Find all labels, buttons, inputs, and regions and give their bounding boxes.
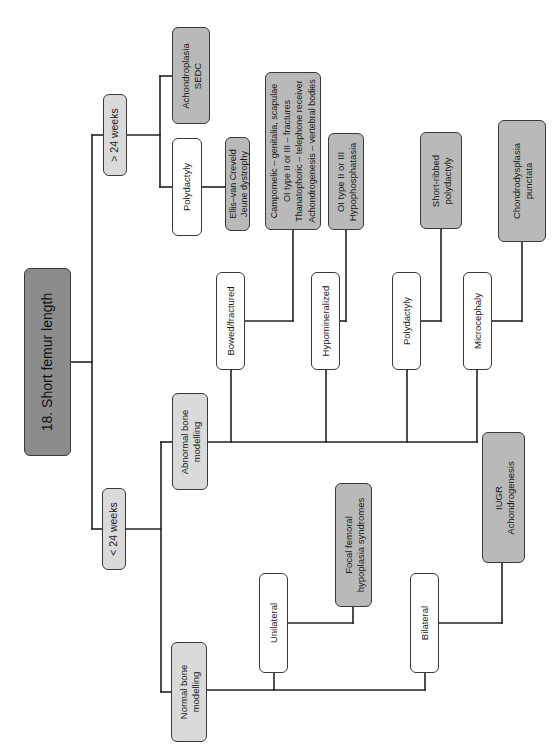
focal-femoral-label: Focal femoral hypoplasia syndromes (342, 498, 365, 593)
node-gt-24-weeks: > 24 weeks (103, 94, 127, 176)
microcephaly-label: Microcephaly (472, 293, 484, 349)
node-unilateral: Unilateral (259, 573, 288, 673)
ellis-label: Ellis–van Creveld Jeune dystrophy (227, 149, 248, 219)
node-bowed-fractured: Bowed/fractured (216, 272, 245, 370)
abnormal-label: Abnormal bone modelling (179, 409, 202, 473)
oi-hypo-label: OI type II or III Hypophosphatasia (335, 142, 358, 221)
node-polydactyly-late: Polydactyly (172, 138, 202, 236)
hypomineralized-label: Hypomineralized (320, 286, 332, 357)
polydactyly-early-label: Polydactyly (401, 297, 413, 345)
unilateral-label: Unilateral (268, 603, 280, 643)
achondroplasia-label: Achondroplasia SEDC (180, 43, 203, 109)
iugr-label: IUGR Achondrogenesis (492, 461, 515, 534)
node-bilateral: Bilateral (410, 573, 439, 673)
root-node-short-femur-length: 18. Short femur length (24, 268, 71, 456)
node-campomelic-list: Campomelic – genitalia, scapulae OI type… (265, 72, 321, 230)
node-microcephaly: Microcephaly (463, 272, 492, 370)
node-iugr-achondrogenesis: IUGR Achondrogenesis (482, 432, 525, 563)
root-label: 18. Short femur length (42, 293, 54, 432)
bowed-label: Bowed/fractured (225, 286, 237, 355)
node-chondrodysplasia-punctata: Chondrodysplasia punctata (498, 120, 546, 242)
node-focal-femoral-hypoplasia: Focal femoral hypoplasia syndromes (335, 483, 372, 607)
node-lt-24-weeks: < 24 weeks (102, 488, 126, 570)
polydactyly-late-label: Polydactyly (181, 163, 193, 211)
campomelic-label: Campomelic – genitalia, scapulae OI type… (268, 79, 318, 223)
chondrodysplasia-label: Chondrodysplasia punctata (511, 143, 534, 219)
node-abnormal-bone-modelling: Abnormal bone modelling (172, 393, 208, 490)
gt-24-weeks-label: > 24 weeks (109, 108, 121, 161)
bilateral-label: Bilateral (419, 606, 431, 640)
short-ribbed-label: Short-ribbed polydactyly (430, 154, 453, 206)
node-short-ribbed-polydactyly: Short-ribbed polydactyly (420, 132, 462, 229)
node-normal-bone-modelling: Normal bone modelling (171, 642, 207, 742)
node-achondroplasia-sedc: Achondroplasia SEDC (172, 27, 210, 124)
node-ellis-van-creveld: Ellis–van Creveld Jeune dystrophy (225, 137, 250, 231)
node-oi-hypophosphatasia: OI type II or III Hypophosphatasia (328, 133, 364, 230)
normal-label: Normal bone modelling (178, 665, 201, 719)
node-hypomineralized: Hypomineralized (311, 272, 340, 370)
lt-24-weeks-label: < 24 weeks (108, 502, 120, 555)
node-polydactyly-early: Polydactyly (392, 272, 421, 370)
